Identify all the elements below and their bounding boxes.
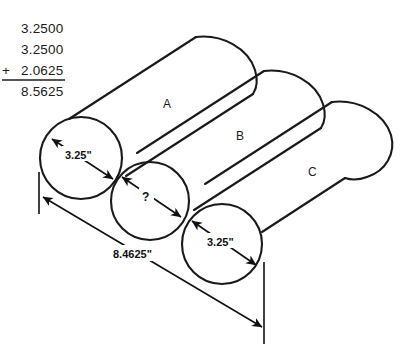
cylinder-c-bottom-edge — [262, 178, 345, 232]
dimension-unknown-b-text: ? — [142, 190, 149, 204]
dimension-unknown-b: ? — [122, 177, 181, 217]
dimension-diameter-c: 3.25" — [192, 221, 256, 265]
cylinder-b-label: B — [236, 129, 244, 143]
dimension-diameter-c-text: 3.25" — [207, 236, 234, 248]
dimension-overall-line — [43, 197, 262, 327]
cylinder-a-far-cap — [196, 37, 257, 94]
cylinder-a-label: A — [163, 97, 171, 111]
calc-operand-1: 3.2500 — [21, 21, 64, 36]
cylinder-b: B — [111, 71, 325, 240]
calc-operator: + — [2, 63, 10, 78]
dimension-diameter-a: 3.25" — [52, 139, 113, 179]
cylinder-c: C — [182, 102, 392, 284]
cylinder-a-top-edge — [69, 37, 196, 119]
calc-operand-3: 2.0625 — [21, 63, 64, 78]
cylinder-dimension-diagram: 3.2500 3.2500 + 2.0625 8.5625 A B — [0, 0, 405, 353]
cylinder-c-label: C — [308, 165, 317, 179]
cylinder-b-far-cap — [264, 71, 325, 128]
cylinder-a: A — [40, 37, 257, 199]
technical-drawing-page: 3.2500 3.2500 + 2.0625 8.5625 A B — [0, 0, 405, 353]
dimension-diameter-a-text: 3.25" — [65, 149, 92, 161]
cylinder-b-bottom-edge — [194, 128, 321, 210]
cylinder-b-top-edge — [137, 71, 264, 153]
cylinder-a-bottom-edge — [126, 94, 253, 176]
calc-operand-2: 3.2500 — [21, 42, 64, 57]
calc-sum: 8.5625 — [21, 84, 64, 99]
calculation-block: 3.2500 3.2500 + 2.0625 8.5625 — [2, 21, 65, 99]
cylinder-c-far-cap — [332, 102, 392, 180]
dimension-overall-text: 8.4625" — [113, 248, 152, 260]
